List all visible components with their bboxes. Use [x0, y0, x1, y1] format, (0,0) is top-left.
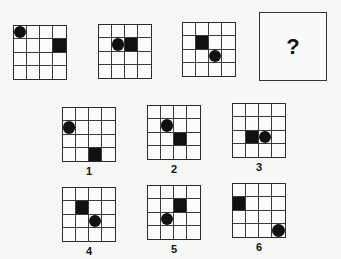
- grid-cell: [233, 131, 246, 144]
- square-icon: [89, 148, 102, 161]
- grid-cell: [125, 25, 138, 38]
- grid-cell: [138, 52, 151, 65]
- option-label-2: 2: [147, 163, 201, 175]
- grid-cell: [89, 135, 102, 148]
- grid-cell: [187, 106, 200, 119]
- grid-cell: [53, 26, 66, 39]
- option-grid-2: [147, 105, 201, 160]
- grid-cell: [99, 65, 112, 78]
- grid-cell: [27, 39, 40, 52]
- grid-cell: [27, 53, 40, 66]
- grid-cell: [102, 135, 115, 148]
- grid-cell: [161, 146, 174, 159]
- option-grid-4: [62, 187, 116, 242]
- option-label-6: 6: [232, 241, 286, 253]
- grid-cell: [183, 36, 196, 49]
- grid-cell: [209, 23, 222, 36]
- grid-cell: [259, 144, 272, 157]
- grid-cell: [187, 213, 200, 226]
- circle-icon: [63, 121, 76, 134]
- square-icon: [174, 133, 187, 146]
- circle-icon: [209, 50, 222, 63]
- square-icon: [174, 199, 187, 212]
- grid-cell: [272, 131, 285, 144]
- grid-cell: [246, 104, 259, 117]
- grid-cell: [148, 119, 161, 132]
- grid-cell: [89, 108, 102, 121]
- option-label-1: 1: [62, 165, 116, 177]
- grid-cell: [76, 148, 89, 161]
- grid-cell: [102, 188, 115, 201]
- grid-cell: [148, 199, 161, 212]
- grid-cell: [40, 26, 53, 39]
- grid-cell: [102, 215, 115, 228]
- grid-cell: [125, 52, 138, 65]
- grid-cell: [63, 135, 76, 148]
- circle-icon: [89, 215, 102, 228]
- grid-cell: [161, 226, 174, 239]
- grid-cell: [183, 50, 196, 63]
- grid-cell: [259, 197, 272, 210]
- grid-cell: [63, 188, 76, 201]
- grid-cell: [148, 226, 161, 239]
- grid-cell: [138, 25, 151, 38]
- grid-cell: [174, 226, 187, 239]
- question-box: ?: [259, 12, 327, 81]
- grid-cell: [112, 52, 125, 65]
- grid-cell: [99, 38, 112, 51]
- grid-cell: [63, 108, 76, 121]
- grid-cell: [53, 66, 66, 79]
- grid-cell: [246, 197, 259, 210]
- grid-cell: [259, 184, 272, 197]
- grid-cell: [222, 63, 235, 76]
- grid-cell: [63, 215, 76, 228]
- grid-cell: [233, 184, 246, 197]
- grid-cell: [53, 53, 66, 66]
- grid-cell: [272, 117, 285, 130]
- grid-cell: [148, 213, 161, 226]
- square-icon: [233, 197, 246, 210]
- grid-cell: [259, 224, 272, 237]
- grid-cell: [174, 146, 187, 159]
- grid-cell: [40, 66, 53, 79]
- grid-cell: [125, 65, 138, 78]
- option-grid-5: [147, 185, 201, 240]
- grid-cell: [76, 121, 89, 134]
- grid-cell: [187, 146, 200, 159]
- grid-cell: [209, 63, 222, 76]
- sequence-grid-1: [13, 25, 67, 80]
- grid-cell: [272, 184, 285, 197]
- grid-cell: [272, 197, 285, 210]
- grid-cell: [102, 108, 115, 121]
- grid-cell: [161, 199, 174, 212]
- grid-cell: [246, 117, 259, 130]
- grid-cell: [14, 53, 27, 66]
- grid-cell: [14, 39, 27, 52]
- grid-cell: [246, 211, 259, 224]
- grid-cell: [161, 186, 174, 199]
- grid-cell: [76, 215, 89, 228]
- grid-cell: [259, 117, 272, 130]
- grid-cell: [174, 186, 187, 199]
- option-label-3: 3: [232, 161, 286, 173]
- grid-cell: [40, 53, 53, 66]
- grid-cell: [259, 104, 272, 117]
- grid-cell: [63, 228, 76, 241]
- grid-cell: [112, 25, 125, 38]
- sequence-grid-2: [98, 24, 152, 79]
- grid-cell: [89, 201, 102, 214]
- square-icon: [125, 38, 138, 51]
- circle-icon: [259, 131, 272, 144]
- grid-cell: [148, 106, 161, 119]
- circle-icon: [272, 224, 285, 237]
- grid-cell: [187, 226, 200, 239]
- grid-cell: [246, 224, 259, 237]
- option-grid-3: [232, 103, 286, 158]
- option-label-5: 5: [147, 243, 201, 255]
- grid-cell: [174, 213, 187, 226]
- grid-cell: [102, 121, 115, 134]
- grid-cell: [40, 39, 53, 52]
- grid-cell: [233, 211, 246, 224]
- grid-cell: [76, 188, 89, 201]
- grid-cell: [196, 23, 209, 36]
